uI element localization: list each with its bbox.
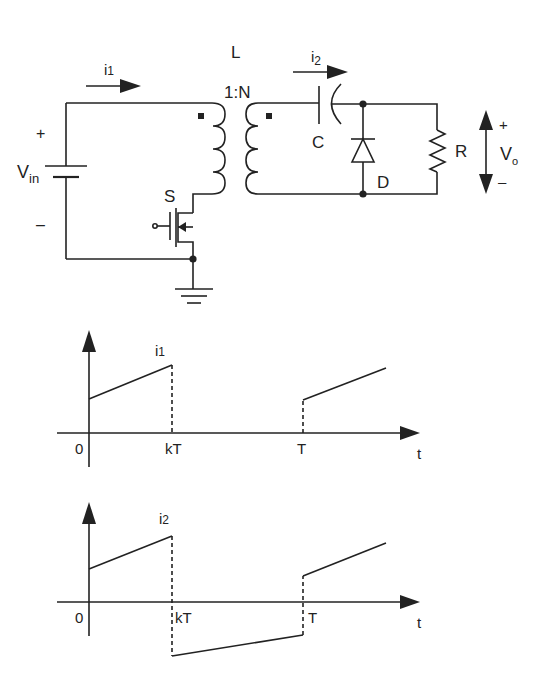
turns-ratio-label: 1:N xyxy=(224,83,250,102)
i1-label: i1 xyxy=(104,61,114,78)
battery-icon xyxy=(45,166,87,177)
graph1-ylabel: i1 xyxy=(155,342,165,359)
vin-label: Vin xyxy=(17,162,39,186)
t-period-label: T xyxy=(297,440,306,457)
resistor-icon xyxy=(430,130,445,172)
junction-dot xyxy=(359,190,366,197)
i2-label: i2 xyxy=(311,48,321,68)
vo-plus-label: + xyxy=(499,116,508,133)
resistor-label: R xyxy=(455,142,467,161)
mosfet-switch-icon xyxy=(153,208,193,259)
t-period-label: T xyxy=(308,609,317,626)
ground-icon xyxy=(175,259,213,303)
secondary-winding-icon xyxy=(246,103,258,194)
junction-dot xyxy=(189,255,196,262)
graph2-ylabel: i2 xyxy=(159,510,169,527)
time-axis-label: t xyxy=(417,614,422,631)
graph-i2: i2 0 kT T t xyxy=(57,502,422,656)
mosfet-arrow-icon xyxy=(178,222,186,232)
vin-plus-label: + xyxy=(36,125,45,142)
y-axis-arrow-icon xyxy=(82,330,96,352)
x-axis-arrow-icon xyxy=(400,595,420,609)
y-axis-arrow-icon xyxy=(82,502,96,524)
flyback-diagram: L 1:N i1 i2 + – Vin S C D R + – Vo i1 0 … xyxy=(0,0,539,693)
vo-arrow-icon xyxy=(479,110,493,194)
time-axis-label: t xyxy=(417,445,422,462)
junction-dot xyxy=(359,100,366,107)
vo-label: Vo xyxy=(500,144,518,167)
x-axis-arrow-icon xyxy=(400,426,420,440)
diode-icon xyxy=(351,139,375,162)
kt-label: kT xyxy=(165,440,182,457)
capacitor-label: C xyxy=(312,133,324,152)
origin-label: 0 xyxy=(75,440,83,457)
i1-arrow-icon xyxy=(86,79,141,93)
kt-label: kT xyxy=(175,609,192,626)
origin-label: 0 xyxy=(75,609,83,626)
vo-minus-label: – xyxy=(498,173,507,190)
polarity-dot-primary xyxy=(198,113,204,119)
diode-label: D xyxy=(377,173,389,192)
secondary-circuit xyxy=(246,84,445,194)
switch-label: S xyxy=(164,187,175,206)
inductor-label: L xyxy=(231,43,240,62)
polarity-dot-secondary xyxy=(266,113,272,119)
primary-circuit xyxy=(66,103,225,303)
primary-winding-icon xyxy=(193,103,225,213)
graph-i1: i1 0 kT T t xyxy=(57,330,422,467)
vin-minus-label: – xyxy=(36,216,45,233)
